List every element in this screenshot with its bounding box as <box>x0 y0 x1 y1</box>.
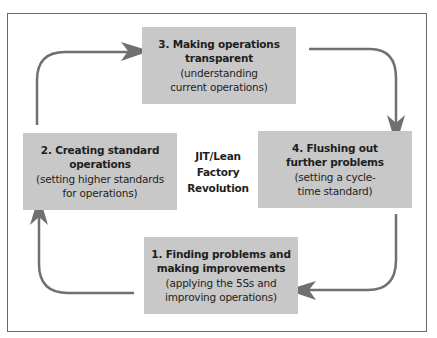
step-2-title-line-1: 2. Creating standard <box>41 143 159 158</box>
step-4-subtitle-line-1: (setting a cycle- <box>294 170 375 185</box>
step-3-subtitle-line-1: (understanding <box>180 66 258 81</box>
step-1-title-line-1: 1. Finding problems and <box>151 247 290 262</box>
step-3-title-line-2: transparent <box>185 51 253 66</box>
step-4-title-line-1: 4. Flushing out <box>292 141 378 156</box>
arrow-4-to-1 <box>300 214 396 290</box>
center-label-line-3: Revolution <box>183 180 253 196</box>
step-2-title-line-2: operations <box>69 157 131 172</box>
arrow-1-to-2 <box>39 205 134 293</box>
center-label: JIT/Lean Factory Revolution <box>183 148 253 196</box>
step-1-subtitle-line-2: improving operations) <box>165 290 277 305</box>
step-2-subtitle-line-1: (setting higher standards <box>36 172 164 187</box>
step-4-subtitle-line-2: time standard) <box>298 184 373 199</box>
step-3-title-line-1: 3. Making operations <box>158 37 279 52</box>
center-label-line-2: Factory <box>183 164 253 180</box>
center-label-line-1: JIT/Lean <box>183 148 253 164</box>
step-2-box: 2. Creating standard operations (setting… <box>23 133 177 210</box>
step-3-box: 3. Making operations transparent (unders… <box>142 27 296 104</box>
arrow-3-to-4 <box>309 49 396 135</box>
step-1-box: 1. Finding problems and making improveme… <box>144 237 298 314</box>
step-4-title-line-2: further problems <box>286 155 384 170</box>
step-1-title-line-2: making improvements <box>157 261 286 276</box>
step-2-subtitle-line-2: for operations) <box>63 186 138 201</box>
step-1-subtitle-line-1: (applying the 5Ss and <box>166 276 277 291</box>
step-3-subtitle-line-2: current operations) <box>170 80 267 95</box>
arrow-2-to-3 <box>37 52 135 125</box>
step-4-box: 4. Flushing out further problems (settin… <box>258 131 412 208</box>
